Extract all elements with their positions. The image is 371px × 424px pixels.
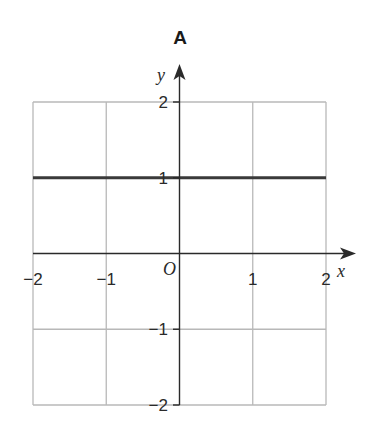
- y-tick-label: −2: [149, 396, 168, 415]
- x-axis-label: x: [336, 261, 345, 281]
- axes: [33, 64, 356, 405]
- coordinate-graph: A −2−11221−1−2 x y O: [0, 0, 371, 424]
- x-tick-label: 1: [248, 270, 257, 289]
- y-tick-label: −1: [149, 320, 168, 339]
- x-tick-label: −2: [23, 270, 42, 289]
- x-tick-label: −1: [97, 270, 116, 289]
- y-tick-label: 2: [159, 93, 168, 112]
- y-tick-label: 1: [159, 169, 168, 188]
- origin-label: O: [163, 259, 176, 279]
- x-tick-label: 2: [321, 270, 330, 289]
- y-axis-label: y: [155, 65, 165, 85]
- graph-title: A: [173, 27, 187, 48]
